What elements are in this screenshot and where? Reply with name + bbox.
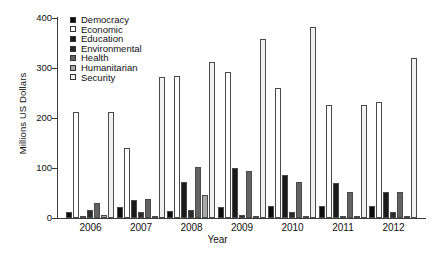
bar-economic-2012: [376, 102, 382, 218]
bar-humanitarian-2008: [202, 195, 208, 218]
bar-security-2006: [108, 112, 114, 218]
legend-swatch-education: [70, 36, 76, 42]
x-axis-line: [57, 218, 426, 219]
bar-education-2011: [333, 183, 339, 218]
y-axis-tick-label: 400: [0, 12, 61, 23]
bar-economic-2011: [326, 105, 332, 219]
bar-education-2007: [131, 200, 137, 219]
bar-health-2011: [347, 192, 353, 219]
bar-environmental-2007: [138, 212, 144, 218]
bar-health-2012: [397, 192, 403, 219]
bar-group-2008: [167, 18, 216, 218]
x-axis-tick-label-2012: 2012: [359, 222, 428, 233]
bar-economic-2010: [275, 88, 281, 218]
bar-group-2009: [218, 18, 267, 218]
bar-economic-2007: [124, 148, 130, 218]
bar-group-2010: [268, 18, 317, 218]
y-axis-tick-label: 0: [0, 212, 61, 223]
bar-democracy-2012: [369, 206, 375, 219]
bar-democracy-2010: [268, 206, 274, 219]
bar-health-2007: [145, 199, 151, 218]
bar-environmental-2012: [390, 212, 396, 218]
bar-humanitarian-2006: [101, 215, 107, 218]
chart-legend: DemocracyEconomicEducationEnvironmentalH…: [70, 15, 142, 82]
bar-health-2008: [195, 167, 201, 218]
bar-humanitarian-2012: [404, 216, 410, 218]
legend-swatch-humanitarian: [70, 65, 76, 71]
bar-security-2012: [411, 58, 417, 218]
bar-democracy-2009: [218, 207, 224, 218]
y-axis-tick-label: 200: [0, 112, 61, 123]
bar-security-2011: [361, 105, 367, 219]
legend-label: Security: [81, 73, 115, 83]
bar-environmental-2009: [239, 215, 245, 218]
bar-group-2011: [319, 18, 368, 218]
bar-education-2009: [232, 168, 238, 218]
legend-swatch-health: [70, 55, 76, 61]
legend-item-security: Security: [70, 73, 142, 83]
bar-security-2008: [209, 62, 215, 218]
y-axis-tick-label: 100: [0, 162, 61, 173]
bar-health-2006: [94, 203, 100, 218]
bar-economic-2006: [73, 112, 79, 218]
bar-environmental-2011: [340, 216, 346, 219]
bar-education-2012: [383, 192, 389, 219]
bar-democracy-2011: [319, 206, 325, 218]
bar-health-2010: [296, 182, 302, 218]
bar-chart-figure: Millions US Dollars Year 4003002001000 2…: [0, 0, 435, 254]
bar-education-2006: [80, 216, 86, 219]
bar-environmental-2010: [289, 212, 295, 218]
bar-security-2009: [260, 39, 266, 218]
legend-swatch-environmental: [70, 46, 76, 52]
bar-education-2008: [181, 182, 187, 218]
bar-environmental-2008: [188, 210, 194, 218]
bar-education-2010: [282, 175, 288, 219]
bar-democracy-2008: [167, 211, 173, 218]
bar-democracy-2007: [117, 207, 123, 219]
bar-economic-2009: [225, 72, 231, 218]
bar-humanitarian-2009: [253, 216, 259, 218]
bar-security-2007: [159, 77, 165, 219]
bar-group-2012: [369, 18, 418, 218]
bar-democracy-2006: [66, 212, 72, 219]
bar-security-2010: [310, 27, 316, 219]
bar-humanitarian-2007: [152, 216, 158, 219]
x-axis-title: Year: [0, 234, 435, 245]
legend-swatch-security: [70, 74, 76, 80]
bar-economic-2008: [174, 76, 180, 219]
legend-swatch-economic: [70, 26, 76, 32]
bar-health-2009: [246, 171, 252, 219]
legend-swatch-democracy: [70, 17, 76, 23]
y-axis-tick-label: 300: [0, 62, 61, 73]
bar-environmental-2006: [87, 210, 93, 218]
bar-humanitarian-2011: [354, 216, 360, 218]
bar-humanitarian-2010: [303, 216, 309, 219]
